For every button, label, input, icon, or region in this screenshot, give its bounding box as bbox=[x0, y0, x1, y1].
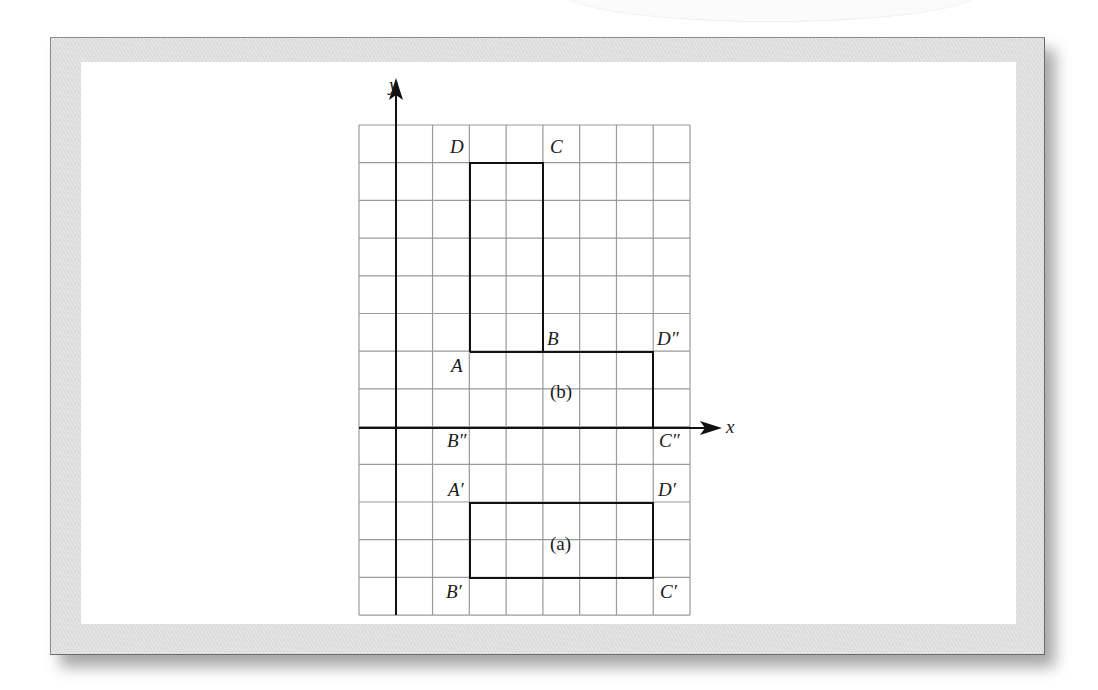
caption-a: (a) bbox=[550, 533, 571, 555]
y-axis-label: y bbox=[387, 74, 398, 95]
label-B-double-prime: B″ bbox=[447, 430, 468, 451]
coordinate-diagram: y x D C B A D″ B″ C″ A′ D′ B′ C′ (b) (a) bbox=[0, 0, 1098, 690]
label-C-prime: C′ bbox=[660, 581, 678, 602]
grid bbox=[359, 125, 690, 615]
label-D-prime: D′ bbox=[657, 479, 677, 500]
label-A: A bbox=[449, 355, 463, 376]
label-C: C bbox=[550, 136, 563, 157]
caption-b: (b) bbox=[550, 381, 572, 403]
label-A-prime: A′ bbox=[446, 479, 465, 500]
label-D-double-prime: D″ bbox=[656, 328, 680, 349]
label-C-double-prime: C″ bbox=[659, 430, 681, 451]
label-D: D bbox=[449, 136, 464, 157]
label-B-prime: B′ bbox=[446, 581, 463, 602]
label-B: B bbox=[547, 328, 559, 349]
x-axis-label: x bbox=[725, 416, 735, 437]
